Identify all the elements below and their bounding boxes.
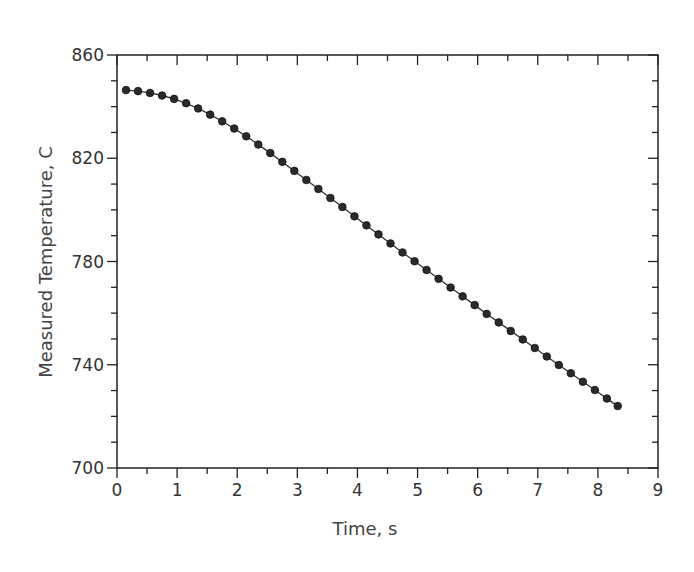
data-point <box>254 141 262 149</box>
data-point <box>351 213 359 221</box>
data-point <box>387 240 395 248</box>
x-tick-label: 5 <box>412 480 423 500</box>
data-point <box>603 395 611 403</box>
data-point <box>483 310 491 318</box>
y-axis: 700740780820860 <box>72 45 658 478</box>
data-point <box>363 222 371 230</box>
data-point <box>507 327 515 335</box>
x-axis: 0123456789 <box>112 55 664 500</box>
data-point <box>435 275 443 283</box>
data-point <box>303 176 311 184</box>
x-tick-label: 7 <box>532 480 543 500</box>
data-point <box>182 99 190 107</box>
data-point <box>194 105 202 113</box>
x-tick-label: 9 <box>653 480 664 500</box>
x-tick-label: 6 <box>472 480 483 500</box>
y-tick-label: 820 <box>72 148 104 168</box>
data-point <box>122 86 130 94</box>
data-point <box>555 361 563 369</box>
data-point <box>375 231 383 239</box>
x-axis-title: Time, s <box>332 518 398 539</box>
data-point <box>266 149 274 157</box>
data-point <box>206 111 214 119</box>
data-point <box>411 257 419 265</box>
data-point <box>567 369 575 377</box>
data-point <box>279 158 287 166</box>
y-tick-label: 860 <box>72 45 104 65</box>
y-axis-title: Measured Temperature, C <box>35 146 56 378</box>
data-point <box>399 249 407 257</box>
x-tick-label: 2 <box>232 480 243 500</box>
data-point <box>543 353 551 361</box>
data-point <box>230 125 238 133</box>
data-point <box>170 95 178 103</box>
data-point <box>134 87 142 95</box>
data-point <box>579 378 587 386</box>
data-point <box>614 402 622 410</box>
x-tick-label: 0 <box>112 480 123 500</box>
x-tick-label: 4 <box>352 480 363 500</box>
data-point <box>291 167 299 175</box>
x-tick-label: 3 <box>292 480 303 500</box>
data-point <box>315 185 323 193</box>
y-tick-label: 780 <box>72 252 104 272</box>
x-tick-label: 1 <box>172 480 183 500</box>
data-point <box>327 194 335 202</box>
temperature-chart: 0123456789 700740780820860 Time, s Measu… <box>0 0 694 572</box>
plot-frame <box>117 55 658 468</box>
data-point <box>339 203 347 211</box>
data-point <box>531 344 539 352</box>
x-tick-label: 8 <box>592 480 603 500</box>
data-series <box>122 86 621 410</box>
data-point <box>471 301 479 309</box>
y-tick-label: 740 <box>72 355 104 375</box>
data-point <box>158 92 166 100</box>
data-point <box>591 386 599 394</box>
data-point <box>242 133 250 141</box>
data-point <box>218 118 226 126</box>
data-point <box>146 89 154 97</box>
data-point <box>519 336 527 344</box>
data-point <box>459 293 467 301</box>
y-tick-label: 700 <box>72 458 104 478</box>
data-point <box>495 319 503 327</box>
data-point <box>447 284 455 292</box>
data-point <box>423 266 431 274</box>
plot-area <box>117 55 658 468</box>
